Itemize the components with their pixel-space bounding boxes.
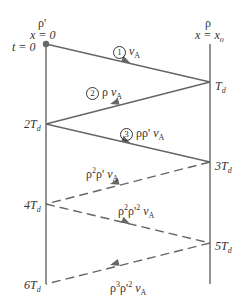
wave-4-label: ρ2ρ' vA [86, 168, 118, 180]
right-x-label: x = xo [195, 29, 224, 41]
time-mark-4td: 4Td [24, 199, 41, 211]
wave-number-badge: 2 [86, 87, 99, 100]
wave-6-line [46, 243, 210, 284]
time-mark-td: Td [215, 80, 226, 92]
wave-4-line [46, 162, 210, 204]
wave-5-label: ρ2ρ'2 vA [118, 205, 154, 217]
wave-1-label: 1vA [113, 45, 140, 59]
wave-2-label: 2ρ vA [86, 86, 122, 100]
time-mark-3td: 3Td [215, 160, 232, 172]
wave-3-label: 3ρρ' vA [120, 127, 164, 141]
wave-number-badge: 3 [120, 128, 133, 141]
wave-2-line [46, 82, 210, 124]
time-mark-2td: 2Td [24, 118, 41, 130]
time-mark-5td: 5Td [215, 240, 232, 252]
time-mark-6td: 6Td [24, 279, 41, 291]
wave-6-label: ρ3ρ'2 vA [110, 282, 146, 294]
wave-number-badge: 1 [113, 46, 126, 59]
t0-label: t = 0 [12, 41, 35, 53]
